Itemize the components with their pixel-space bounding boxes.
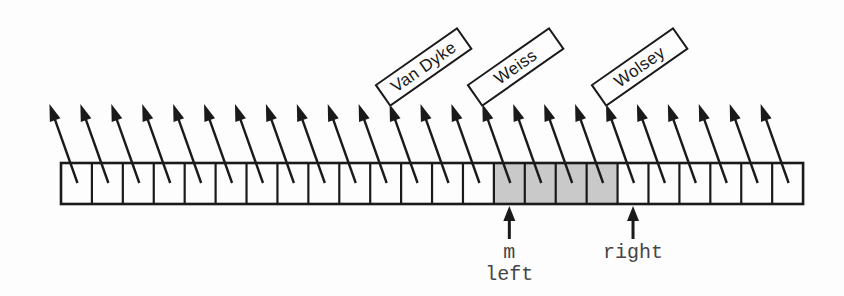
cell-arrow (235, 104, 263, 183)
cell-arrow-head (173, 104, 184, 122)
cell-arrow-head (421, 104, 432, 122)
index-pointer-arrow-right (627, 206, 639, 239)
shaded-array-cell (494, 163, 525, 204)
cell-arrow-head (451, 104, 462, 122)
index-pointer-head (627, 206, 639, 221)
cell-arrow-head (142, 104, 153, 122)
binary-search-array-diagram: Van Dyke Weiss Wolsey m left right (0, 0, 844, 296)
cell-arrow-shaft (145, 113, 170, 183)
cell-arrow-head (668, 104, 679, 122)
cell-arrow-shaft (424, 113, 449, 183)
cell-arrow-shaft (702, 113, 727, 183)
cell-arrow (173, 104, 201, 183)
cell-arrow-shaft (671, 113, 696, 183)
cell-arrow-shaft (455, 113, 480, 183)
array-and-arrows-canvas (0, 0, 844, 296)
cell-arrow-head (297, 104, 308, 122)
cell-arrow-head (80, 104, 91, 122)
cell-arrow (297, 104, 325, 183)
cell-arrow (761, 104, 789, 183)
cell-arrow (266, 104, 294, 183)
cell-arrow-head (266, 104, 277, 122)
cell-arrow (668, 104, 696, 183)
cell-arrow-shaft (53, 113, 78, 183)
cell-arrow-shaft (269, 113, 294, 183)
cell-arrow-shaft (393, 113, 418, 183)
cell-arrow-shaft (640, 113, 665, 183)
cell-arrow-head (637, 104, 648, 122)
cell-arrow-shaft (238, 113, 263, 183)
cell-arrow-head (49, 104, 60, 122)
cell-arrow-shaft (300, 113, 325, 183)
cell-arrow-shaft (114, 113, 139, 183)
cell-arrow-head (482, 104, 493, 122)
cell-arrow-shaft (84, 113, 109, 183)
cell-arrow-shaft (207, 113, 232, 183)
cell-arrow-head (513, 104, 524, 122)
pointer-line-left: left (485, 264, 533, 286)
cell-arrow-head (606, 104, 617, 122)
index-pointer-arrow-m-left (503, 206, 515, 239)
shaded-array-cell (556, 163, 587, 204)
cell-arrow (730, 104, 758, 183)
cell-arrow-head (575, 104, 586, 122)
cell-arrow-shaft (331, 113, 356, 183)
cell-arrow-head (699, 104, 710, 122)
cell-arrow-head (761, 104, 772, 122)
cell-arrow-shaft (176, 113, 201, 183)
cell-arrow (451, 104, 479, 183)
cell-pointer-arrows (49, 104, 788, 183)
cell-arrow-head (544, 104, 555, 122)
cell-arrow-head (359, 104, 370, 122)
pointer-label-m-left: m left (485, 242, 533, 286)
cell-arrow-head (730, 104, 741, 122)
cell-arrow (421, 104, 449, 183)
pointer-line-right: right (603, 242, 663, 264)
cell-arrow-head (111, 104, 122, 122)
cell-arrow (637, 104, 665, 183)
cell-arrow-head (235, 104, 246, 122)
shaded-array-cell (587, 163, 618, 204)
index-pointer-arrows (503, 206, 639, 239)
cell-arrow-shaft (362, 113, 387, 183)
shaded-array-cell (525, 163, 556, 204)
cell-arrow-shaft (764, 113, 789, 183)
cell-arrow (359, 104, 387, 183)
cell-arrow (204, 104, 232, 183)
cell-arrow (142, 104, 170, 183)
cell-arrow (49, 104, 77, 183)
cell-arrow (390, 104, 418, 183)
pointer-line-m: m (485, 242, 533, 264)
cell-arrow-head (204, 104, 215, 122)
cell-arrow (699, 104, 727, 183)
cell-arrow-head (390, 104, 401, 122)
cell-arrow (80, 104, 108, 183)
index-pointer-head (503, 206, 515, 221)
cell-arrow (111, 104, 139, 183)
cell-arrow-shaft (733, 113, 758, 183)
pointer-label-right: right (603, 242, 663, 264)
cell-arrow (328, 104, 356, 183)
cell-arrow-head (328, 104, 339, 122)
